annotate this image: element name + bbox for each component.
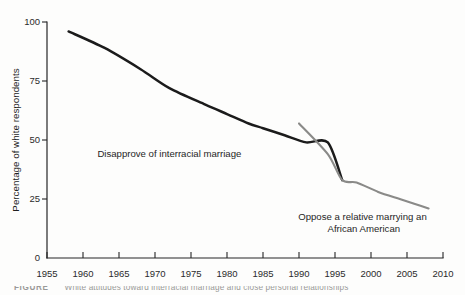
- x-tick-label-1965: 1965: [108, 268, 129, 279]
- series-annotation-oppose: Oppose a relative marrying an African Am…: [298, 211, 429, 234]
- series-annotation-oppose-line1: Oppose a relative marrying an: [298, 211, 427, 222]
- figure-caption-text: White attitudes toward interracial marri…: [65, 286, 349, 292]
- y-tick-label-25: 25: [29, 193, 40, 204]
- x-tick-label-1980: 1980: [216, 268, 237, 279]
- line-chart: Percentage of white respondents 100 75 5…: [0, 0, 465, 295]
- x-tick-label-1995: 1995: [324, 268, 345, 279]
- figure-caption-line: FIGUREWhite attitudes toward interracial…: [14, 286, 349, 292]
- y-axis-title: Percentage of white respondents: [10, 68, 21, 211]
- series-line-oppose: [299, 123, 429, 208]
- x-tick-label-1990: 1990: [288, 268, 309, 279]
- series-annotation-disapprove: Disapprove of interracial marriage: [97, 148, 241, 159]
- y-tick-label-100: 100: [24, 16, 40, 27]
- chart-figure: Percentage of white respondents 100 75 5…: [0, 0, 465, 295]
- x-tick-label-2005: 2005: [396, 268, 417, 279]
- x-tick-label-1970: 1970: [144, 268, 165, 279]
- x-tick-label-1985: 1985: [252, 268, 273, 279]
- y-tick-label-75: 75: [29, 75, 40, 86]
- y-tick-label-0: 0: [35, 252, 40, 263]
- x-tick-label-2010: 2010: [432, 268, 453, 279]
- x-tick-label-1960: 1960: [72, 268, 93, 279]
- figure-caption-clipped: FIGUREWhite attitudes toward interracial…: [0, 286, 465, 295]
- y-tick-label-50: 50: [29, 134, 40, 145]
- figure-caption-label: FIGURE: [14, 286, 49, 292]
- series-annotation-oppose-line2: African American: [328, 223, 401, 234]
- x-tick-label-1955: 1955: [36, 268, 57, 279]
- x-tick-label-1975: 1975: [180, 268, 201, 279]
- x-tick-label-2000: 2000: [360, 268, 381, 279]
